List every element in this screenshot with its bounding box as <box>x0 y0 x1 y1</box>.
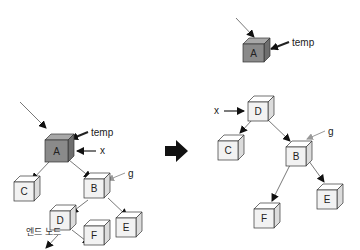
g-pointer-arrow <box>108 173 125 180</box>
temp-label: temp <box>91 127 114 138</box>
g-label: g <box>128 168 134 179</box>
svg-text:F: F <box>261 213 267 224</box>
tree-diagram: temp x g A C B D <box>0 0 360 250</box>
svg-text:B: B <box>91 183 98 194</box>
node-a: A <box>45 134 74 162</box>
edge-d-b-after <box>267 119 290 141</box>
g-label-after: g <box>328 126 334 137</box>
node-e: E <box>116 212 142 237</box>
root-pointer-arrow-after <box>236 18 254 37</box>
svg-text:F: F <box>91 230 97 241</box>
root-pointer-arrow <box>20 102 46 128</box>
after-tree: temp A x g D C <box>214 18 343 228</box>
svg-text:E: E <box>324 194 331 205</box>
right-arrow-icon <box>165 140 188 162</box>
svg-text:D: D <box>254 106 261 117</box>
edge-b-f-after <box>272 165 290 201</box>
x-label-after: x <box>214 105 219 116</box>
node-d-after: D <box>248 96 274 121</box>
temp-label-after: temp <box>292 37 315 48</box>
svg-text:B: B <box>293 151 300 162</box>
node-b-after: B <box>286 141 312 166</box>
before-tree: temp x g A C B D <box>14 102 142 248</box>
svg-text:A: A <box>53 146 60 157</box>
node-e-after: E <box>317 184 343 209</box>
svg-text:C: C <box>224 145 231 156</box>
node-b: B <box>84 173 110 198</box>
g-pointer-arrow-after <box>307 131 325 139</box>
node-c-after: C <box>218 135 244 160</box>
svg-text:A: A <box>250 48 257 59</box>
svg-text:E: E <box>123 222 130 233</box>
node-f: F <box>84 220 110 245</box>
end-node-label: 엔드 노드 <box>26 227 61 237</box>
node-f-after: F <box>254 203 280 228</box>
edge-d-c-after <box>240 120 252 133</box>
node-a-after: A <box>243 38 270 62</box>
svg-text:C: C <box>20 186 27 197</box>
temp-pointer-arrow-after <box>271 42 289 49</box>
svg-text:D: D <box>56 215 63 226</box>
node-c: C <box>14 176 40 201</box>
x-label: x <box>100 145 105 156</box>
